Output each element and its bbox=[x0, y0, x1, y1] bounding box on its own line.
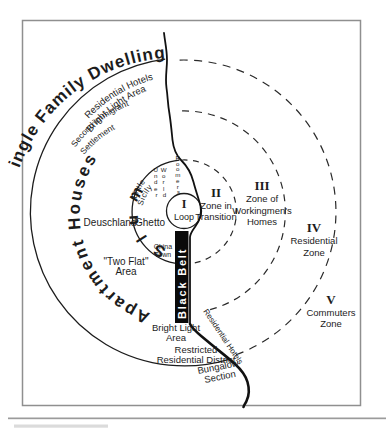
black-belt-label: Black Belt bbox=[176, 248, 188, 319]
zone-5-name-line2: Zone bbox=[320, 318, 342, 329]
zone-2-label: II Zone in Transition bbox=[195, 185, 236, 222]
bright-light-south-line2: Area bbox=[166, 332, 187, 343]
zone-1-numeral: I bbox=[182, 197, 187, 211]
roomers-stack: R o o m e r s bbox=[175, 154, 182, 195]
zone-5-name-line1: Commuters bbox=[306, 307, 355, 318]
underworld-world-stack: W o r l d bbox=[161, 166, 169, 198]
zone-3-name-line1: Zone of bbox=[246, 193, 279, 204]
bottom-rule bbox=[8, 418, 386, 420]
zone-1-name: Loop bbox=[174, 212, 194, 222]
diagram-canvas: Black Belt Single Family Dwellings Resid… bbox=[0, 0, 386, 429]
roomers-letter: s bbox=[177, 188, 180, 195]
zone-2-name-line2: Transition bbox=[195, 211, 236, 222]
two-flat-label-line2: Area bbox=[115, 266, 137, 277]
zone-3-label: III Zone of Workingmen's Homes bbox=[232, 178, 292, 227]
ghetto-label: Ghetto bbox=[135, 217, 165, 228]
zone-5-numeral: V bbox=[326, 292, 336, 307]
zone-3-numeral: III bbox=[254, 178, 269, 193]
china-town-label-line2: Town bbox=[155, 251, 171, 258]
zone-3-name-line3: Homes bbox=[247, 216, 277, 227]
zone-4-numeral: IV bbox=[307, 220, 322, 235]
zone-5-label: V Commuters Zone bbox=[306, 292, 355, 329]
zone-2-name-line1: Zone in bbox=[200, 200, 232, 211]
under-letter: r bbox=[155, 191, 157, 198]
caption-fragment bbox=[14, 425, 108, 428]
underworld-under-stack: U n d e r bbox=[153, 166, 159, 198]
deutschland-label: Deuschland bbox=[84, 217, 137, 228]
zone-4-name-line1: Residential bbox=[291, 235, 338, 246]
china-town-label-line1: China bbox=[154, 243, 172, 250]
world-letter: d bbox=[163, 191, 167, 198]
zone-3-name-line2: Workingmen's bbox=[232, 205, 292, 216]
zone-2-numeral: II bbox=[211, 185, 221, 200]
zone-4-name-line2: Zone bbox=[303, 247, 325, 258]
burgess-concentric-zone-diagram: Black Belt Single Family Dwellings Resid… bbox=[0, 0, 386, 429]
